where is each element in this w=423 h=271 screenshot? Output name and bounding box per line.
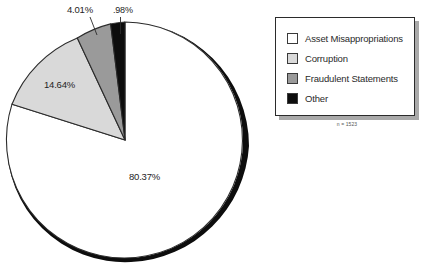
legend-item-label: Fraudulent Statements (305, 74, 398, 84)
legend-item-corruption: Corruption (287, 49, 408, 68)
legend-swatch-icon (287, 93, 298, 104)
slice-label-corruption: 14.64% (44, 80, 75, 90)
legend-item-fraudulent-statements: Fraudulent Statements (287, 69, 408, 88)
legend-swatch-icon (287, 73, 298, 84)
legend-item-label: Asset Misappropriations (305, 34, 403, 44)
sample-size-caption: n = 1523 (275, 121, 419, 127)
legend: Asset Misappropriations Corruption Fraud… (275, 17, 415, 116)
legend-item-other: Other (287, 89, 408, 108)
slice-label-fraudulent-statements: 4.01% (67, 5, 93, 15)
pie-chart-figure: 4.01% .98% 14.64% 80.37% Asset Misapprop… (0, 0, 423, 271)
legend-item-asset-misappropriations: Asset Misappropriations (287, 29, 408, 48)
legend-items: Asset Misappropriations Corruption Fraud… (287, 29, 408, 109)
legend-swatch-icon (287, 53, 298, 64)
pie-chart-svg (0, 0, 266, 271)
slice-label-asset-misappropriations: 80.37% (129, 172, 160, 182)
legend-swatch-icon (287, 33, 298, 44)
slice-label-other: .98% (113, 6, 133, 15)
legend-item-label: Corruption (305, 54, 348, 64)
pie-chart-area: 4.01% .98% 14.64% 80.37% (0, 0, 266, 271)
legend-item-label: Other (305, 94, 328, 104)
